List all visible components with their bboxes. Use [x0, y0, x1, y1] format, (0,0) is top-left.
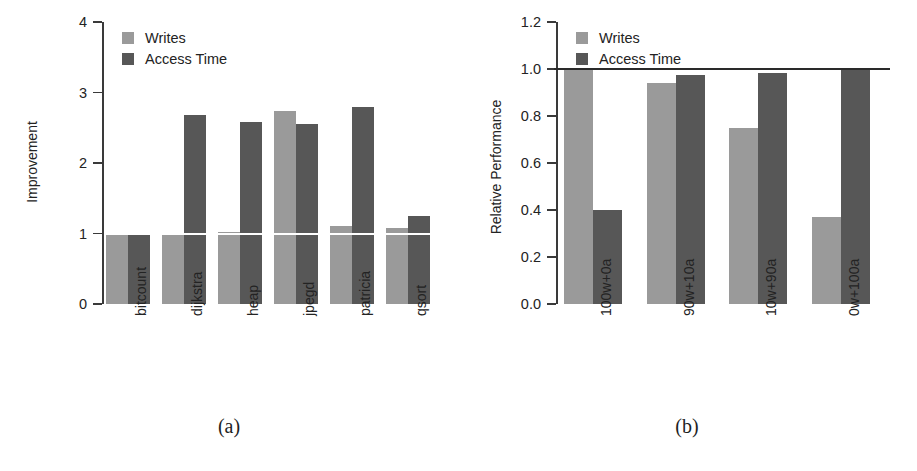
- y-axis-tick: [93, 233, 102, 235]
- y-axis-tick-label: 0.8: [495, 109, 541, 124]
- bar-group: [330, 22, 374, 304]
- legend-label-access-time: Access Time: [599, 52, 681, 67]
- y-axis-tick: [547, 162, 556, 164]
- legend-swatch-access-time-icon: [122, 53, 134, 65]
- y-axis-tick: [547, 209, 556, 211]
- bar-writes: [647, 83, 676, 304]
- y-axis-tick-label: 0.6: [495, 156, 541, 171]
- bar-access-time: [240, 122, 262, 304]
- bar-writes: [106, 234, 128, 305]
- y-axis-tick: [547, 115, 556, 117]
- y-axis-tick: [93, 21, 102, 23]
- x-axis-category-label: 100w+0a: [599, 259, 613, 316]
- legend-swatch-writes-icon: [576, 32, 588, 44]
- y-axis-tick-label: 0.2: [495, 250, 541, 265]
- x-axis-category-label: 0w+100a: [847, 259, 861, 316]
- y-axis-tick: [547, 21, 556, 23]
- x-axis-category-label: patricia: [358, 271, 372, 316]
- bar-writes: [218, 232, 240, 304]
- legend-a: Writes Access Time: [122, 30, 227, 72]
- y-axis-tick: [93, 303, 102, 305]
- y-axis-tick-label: 2: [51, 156, 87, 171]
- legend-label-access-time: Access Time: [145, 52, 227, 67]
- x-axis-category-label: jpegd: [302, 282, 316, 316]
- bar-writes: [564, 69, 593, 304]
- legend-item-access-time: Access Time: [122, 51, 227, 67]
- y-axis-tick-label: 0.4: [495, 203, 541, 218]
- x-axis-category-label: 10w+90a: [764, 259, 778, 316]
- y-axis-tick-label: 4: [51, 15, 87, 30]
- x-axis-category-label: bitcount: [134, 267, 148, 316]
- bar-group: [274, 22, 318, 304]
- legend-label-writes: Writes: [145, 31, 186, 46]
- legend-item-writes: Writes: [122, 30, 227, 46]
- x-axis-category-label: heap: [246, 285, 260, 316]
- x-axis-category-label: dijkstra: [190, 272, 204, 316]
- x-axis-category-label: 90w+10a: [682, 259, 696, 316]
- y-axis-tick: [547, 256, 556, 258]
- bar-writes: [729, 128, 758, 304]
- legend-swatch-access-time-icon: [576, 53, 588, 65]
- y-axis-tick-label: 1: [51, 227, 87, 242]
- x-axis-category-label: qsort: [414, 285, 428, 316]
- subfigure-caption-b: (b): [458, 415, 917, 438]
- y-axis-tick: [547, 303, 556, 305]
- y-axis-tick: [93, 92, 102, 94]
- figure: Improvement Writes Access Time (a) 01234…: [0, 0, 917, 471]
- chart-panel-a: Improvement Writes Access Time (a) 01234…: [0, 0, 458, 471]
- y-axis-tick: [93, 162, 102, 164]
- legend-item-writes: Writes: [576, 30, 681, 46]
- bar-writes: [812, 217, 841, 304]
- chart-panel-b: Relative Performance Writes Access Time …: [458, 0, 916, 471]
- reference-line: [104, 233, 440, 235]
- legend-swatch-writes-icon: [122, 32, 134, 44]
- y-axis-tick-label: 0.0: [495, 297, 541, 312]
- y-axis-tick-label: 1.0: [495, 62, 541, 77]
- bar-writes: [330, 226, 352, 304]
- y-axis-tick-label: 1.2: [495, 15, 541, 30]
- bar-group: [386, 22, 430, 304]
- y-axis-tick-label: 0: [51, 297, 87, 312]
- legend-label-writes: Writes: [599, 31, 640, 46]
- y-axis-tick-label: 3: [51, 86, 87, 101]
- legend-b: Writes Access Time: [576, 30, 681, 72]
- bar-access-time: [296, 124, 318, 304]
- bar-writes: [386, 228, 408, 304]
- bar-writes: [274, 111, 296, 304]
- bar-writes: [162, 234, 184, 305]
- legend-item-access-time: Access Time: [576, 51, 681, 67]
- y-axis-title-a: Improvement: [25, 97, 39, 227]
